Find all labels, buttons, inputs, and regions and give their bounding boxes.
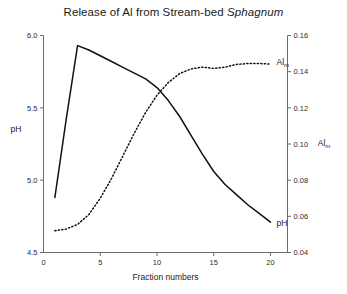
x-tick-label: 0: [41, 258, 45, 267]
y-tick-label-right: 0.12: [294, 104, 309, 113]
x-tick-label: 20: [266, 258, 274, 267]
axis-labels-group: Fraction numberspHAlm: [11, 124, 331, 282]
tick-labels-group: 4.55.05.56.00.040.060.080.100.120.140.16…: [27, 31, 308, 266]
x-tick-label: 15: [210, 258, 218, 267]
chart-figure: Release of Al from Stream-bed Sphagnum 4…: [0, 0, 347, 294]
y-tick-label-right: 0.06: [294, 212, 309, 221]
y-tick-label-right: 0.16: [294, 31, 309, 40]
y-tick-label-right: 0.08: [294, 176, 309, 185]
y-tick-label-left: 5.5: [27, 104, 37, 113]
y-tick-label-left: 4.5: [27, 248, 37, 257]
axes-group: [44, 36, 288, 253]
y-tick-label-right: 0.04: [294, 248, 309, 257]
y-tick-label-left: 5.0: [27, 176, 37, 185]
series-group: pHAlm: [55, 46, 289, 231]
series-label-ph: pH: [276, 218, 287, 228]
x-tick-label: 5: [98, 258, 102, 267]
chart-plot-area: 4.55.05.56.00.040.060.080.100.120.140.16…: [0, 0, 347, 294]
y-tick-label-right: 0.14: [294, 67, 309, 76]
ticks-group: [40, 36, 291, 257]
y-axis-label-left: pH: [11, 124, 22, 134]
series-line-ph: [55, 46, 271, 222]
y-tick-label-right: 0.10: [294, 140, 309, 149]
series-label-subscript: m: [284, 62, 289, 68]
y-axis-label-right: Alm: [318, 138, 331, 149]
series-line-alm: [55, 64, 271, 231]
x-axis-label: Fraction numbers: [132, 272, 198, 282]
x-tick-label: 10: [153, 258, 161, 267]
y-axis-label-right-subscript: m: [325, 143, 330, 149]
y-tick-label-left: 6.0: [27, 31, 37, 40]
